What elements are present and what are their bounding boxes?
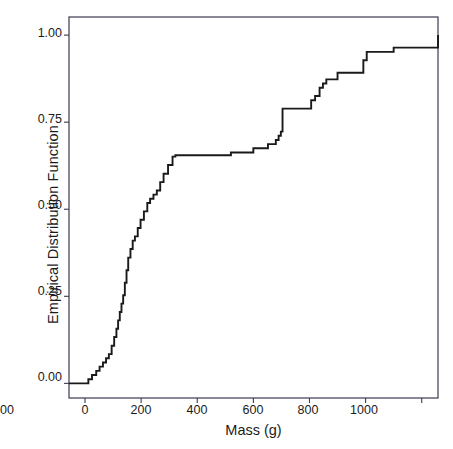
y-tick-label-0-00: 0.00	[38, 370, 62, 384]
x-tick-label-400: 400	[187, 403, 208, 417]
x-tick-label-800: 800	[298, 403, 319, 417]
y-tick-label-1-00: 1.00	[38, 26, 62, 40]
x-tick-label-1000: 1000	[350, 403, 378, 417]
axis-frame	[69, 17, 438, 398]
x-tick-label-200: 200	[131, 403, 152, 417]
y-tick-label-0-75: 0.75	[38, 112, 62, 126]
x-tick-label-600: 600	[243, 403, 264, 417]
ecdf-step-line	[69, 35, 438, 383]
x-axis-title: Mass (g)	[69, 422, 438, 438]
x-tick-label-1200: 1200	[0, 403, 14, 417]
ecdf-chart-figure: Empirical Distribution Function 1.00 0.7…	[0, 0, 453, 449]
x-tick-label-0: 0	[82, 403, 89, 417]
y-axis-ticks	[64, 35, 69, 383]
plot-area	[0, 0, 453, 449]
y-axis-tick-labels: 1.00 0.75 0.50 0.25 0.00	[0, 0, 62, 449]
y-tick-label-0-50: 0.50	[38, 198, 62, 212]
y-tick-label-0-25: 0.25	[38, 284, 62, 298]
